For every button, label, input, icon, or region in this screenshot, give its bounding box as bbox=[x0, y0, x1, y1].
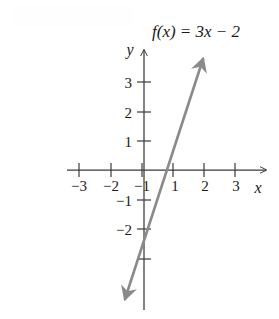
x-tick-label: −2 bbox=[103, 178, 119, 194]
graph-figure: −3 −2 −1 1 2 3 3 2 1 −1 −2 x y f(x) = 3x… bbox=[0, 0, 279, 319]
x-axis-label: x bbox=[253, 179, 261, 196]
x-tick-label: −3 bbox=[71, 178, 87, 194]
y-tick-label: 1 bbox=[125, 134, 133, 150]
y-tick-label: 3 bbox=[125, 75, 133, 91]
coordinate-plane: −3 −2 −1 1 2 3 3 2 1 −1 −2 x y f(x) = 3x… bbox=[0, 0, 279, 319]
x-tick-label: 2 bbox=[201, 178, 209, 194]
function-equation-label: f(x) = 3x − 2 bbox=[152, 22, 241, 41]
x-tick-label: 1 bbox=[171, 178, 179, 194]
y-tick-label: 2 bbox=[125, 105, 133, 121]
y-axis-label: y bbox=[124, 41, 134, 59]
y-tick-label: −1 bbox=[116, 193, 132, 209]
x-tick-label: 3 bbox=[232, 178, 240, 194]
y-tick-label: −2 bbox=[116, 222, 132, 238]
x-tick-label: −1 bbox=[134, 178, 150, 194]
